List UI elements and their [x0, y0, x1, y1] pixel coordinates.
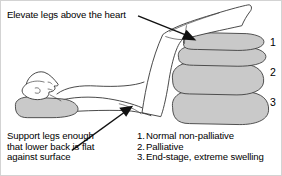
pillow-layer-3 — [172, 62, 263, 95]
head-profile — [22, 72, 58, 100]
legend-item-1: 1. Normal non-palliative — [137, 131, 264, 142]
stack-marker-3: 3 — [270, 97, 276, 108]
legend-item-3: 3. End-stage, extreme swelling — [137, 152, 264, 163]
callout-support-line-3: against surface — [7, 152, 94, 163]
callout-support-legs-text: Support legs enough that lower back is f… — [7, 131, 94, 163]
stack-marker-1: 1 — [270, 37, 276, 48]
legend-item-3-number: 3. — [137, 152, 146, 163]
legend-item-1-number: 1. — [137, 131, 146, 142]
stack-marker-2: 2 — [270, 67, 276, 78]
legend: 1. Normal non-palliative 2. Palliative 3… — [137, 131, 264, 163]
callout-support-line-1: Support legs enough — [7, 131, 94, 142]
head-pillow — [15, 97, 78, 118]
patient-head-area — [15, 72, 78, 118]
callout-elevate-legs-text: Elevate legs above the heart — [7, 10, 126, 21]
legend-item-3-label: End-stage, extreme swelling — [146, 152, 264, 163]
patient-leg-elevation-diagram: Elevate legs above the heart Support leg… — [0, 0, 282, 176]
pillow-layer-4-bottom — [172, 90, 268, 125]
pillow-stack — [172, 33, 268, 125]
legend-item-1-label: Normal non-palliative — [146, 131, 234, 142]
chest-top-line — [57, 82, 144, 94]
